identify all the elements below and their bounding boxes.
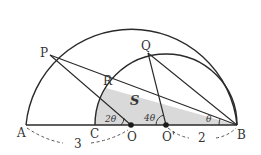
label-point-a: A — [16, 126, 26, 140]
label-angle-4theta: 4θ — [143, 113, 156, 123]
label-point-o-prime: O' — [162, 130, 175, 144]
dashed-length-ao — [27, 128, 63, 143]
label-point-b: B — [237, 128, 246, 142]
label-angle-theta: θ — [206, 114, 212, 124]
center-dot-o-prime — [163, 122, 169, 128]
segment-po — [50, 55, 131, 125]
label-angle-2theta: 2θ — [104, 114, 117, 124]
shaded-region-s — [95, 88, 237, 125]
label-point-r: R — [103, 74, 113, 88]
dashed-length-o-prime-b-right — [216, 128, 236, 138]
label-region-s: S — [130, 93, 139, 108]
label-point-p: P — [40, 46, 48, 60]
center-dot-o — [128, 122, 134, 128]
label-point-q: Q — [141, 39, 151, 53]
label-length-2: 2 — [198, 131, 206, 145]
label-point-c: C — [90, 127, 99, 141]
geometry-diagram: P Q R A C O O' B S 2θ 4θ θ 3 2 — [0, 0, 261, 155]
label-point-o: O — [127, 130, 137, 144]
label-length-3: 3 — [74, 137, 82, 151]
